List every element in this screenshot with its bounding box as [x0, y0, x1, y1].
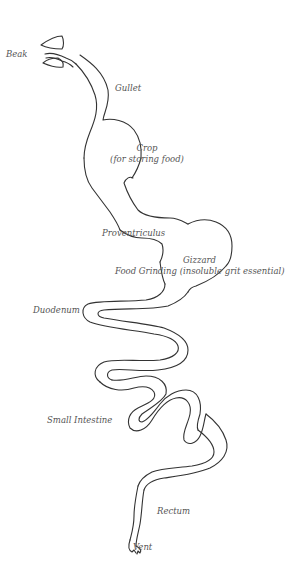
rectum-wall-right — [130, 486, 138, 540]
label-vent: Vent — [133, 542, 152, 552]
crop-wall-left — [84, 158, 120, 230]
label-small-intestine: Small Intestine — [47, 415, 112, 425]
label-crop-subtitle: (for storing food) — [92, 154, 202, 164]
label-duodenum: Duodenum — [33, 305, 80, 315]
label-gizzard-subtitle: Food Grinding (insoluble grit essential) — [115, 266, 285, 276]
duodenum-outer — [83, 284, 178, 382]
label-beak: Beak — [6, 49, 28, 59]
label-proventriculus: Proventriculus — [102, 228, 165, 238]
label-gizzard-title: Gizzard — [183, 255, 216, 265]
label-rectum: Rectum — [157, 506, 190, 516]
beak-upper-mandible — [41, 36, 64, 49]
digestive-tract-diagram: Beak Gullet Crop (for storing food) Prov… — [0, 0, 295, 574]
small-intestine-lower-inner — [138, 430, 214, 486]
beak-lower-mandible — [43, 58, 63, 67]
digestive-tract-drawing — [0, 0, 295, 574]
duodenum-inner — [98, 292, 188, 380]
label-crop-title: Crop — [92, 143, 202, 153]
label-gullet: Gullet — [115, 83, 141, 93]
small-intestine-lower — [144, 414, 227, 490]
rectum-wall-left — [136, 490, 144, 546]
crop-wall-right — [124, 158, 188, 224]
